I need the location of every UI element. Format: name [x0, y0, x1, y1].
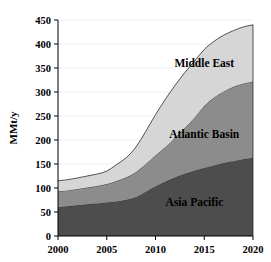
y-tick-label: 350 [35, 63, 51, 74]
x-tick-label: 2010 [145, 244, 166, 255]
y-tick-label: 250 [35, 111, 51, 122]
y-tick-label: 0 [46, 231, 51, 242]
chart-container: 050100150200250300350400450 200020052010… [0, 0, 271, 262]
x-tick-label: 2020 [243, 244, 264, 255]
x-tick-label: 2015 [194, 244, 215, 255]
y-tick-label: 50 [41, 207, 52, 218]
y-tick-label: 300 [35, 87, 51, 98]
x-tick-label: 2000 [48, 244, 69, 255]
y-tick-label: 150 [35, 159, 51, 170]
stacked-area-chart: 050100150200250300350400450 200020052010… [0, 0, 271, 262]
y-axis-title: MMt/y [7, 111, 19, 144]
series-label-asia-pacific: Asia Pacific [166, 196, 224, 208]
y-tick-label: 100 [35, 183, 51, 194]
y-tick-label: 400 [35, 39, 51, 50]
y-tick-label: 200 [35, 135, 51, 146]
series-label-middle-east: Middle East [174, 57, 234, 69]
series-label-atlantic-basin: Atlantic Basin [169, 128, 240, 140]
y-tick-label: 450 [35, 15, 51, 26]
x-tick-label: 2005 [96, 244, 117, 255]
